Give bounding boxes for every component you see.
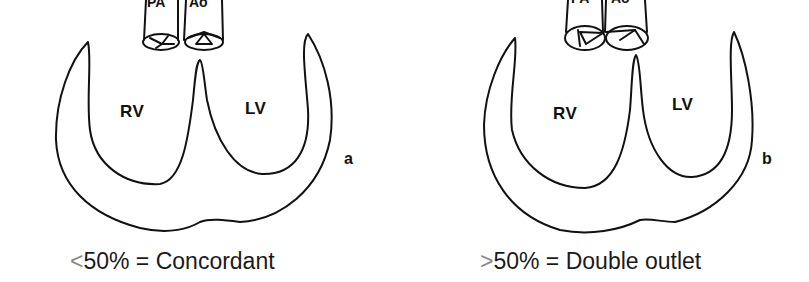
- ao-vessel: [605, 0, 648, 50]
- chamber-label-rv: RV: [553, 104, 577, 124]
- heart-diagram-a: [0, 0, 400, 282]
- caption-b: >50% = Double outlet: [480, 248, 701, 275]
- chamber-label-rv: RV: [120, 102, 144, 122]
- heart-outline: [56, 34, 332, 231]
- chamber-label-lv: LV: [672, 95, 693, 115]
- pa-vessel: [565, 0, 605, 50]
- caption-text: 50% = Concordant: [83, 248, 274, 274]
- greater-than-symbol: >: [480, 248, 493, 274]
- panel-letter-a: a: [344, 150, 353, 168]
- panel-letter-b: b: [762, 150, 772, 168]
- caption-text: 50% = Double outlet: [493, 248, 701, 274]
- panel-b: PA Ao RV LV b >50% = Double outlet: [400, 0, 809, 282]
- heart-outline: [484, 32, 753, 232]
- caption-a: <50% = Concordant: [70, 248, 275, 275]
- chamber-label-lv: LV: [245, 99, 266, 119]
- vessel-label-ao: Ao: [611, 0, 630, 6]
- heart-diagram-b: [400, 0, 809, 282]
- panel-a: PA Ao RV LV a <50% = Concordant: [0, 0, 400, 282]
- vessel-label-pa: PA: [571, 0, 589, 6]
- vessel-label-pa: PA: [147, 0, 165, 10]
- vessel-label-ao: Ao: [189, 0, 208, 10]
- less-than-symbol: <: [70, 248, 83, 274]
